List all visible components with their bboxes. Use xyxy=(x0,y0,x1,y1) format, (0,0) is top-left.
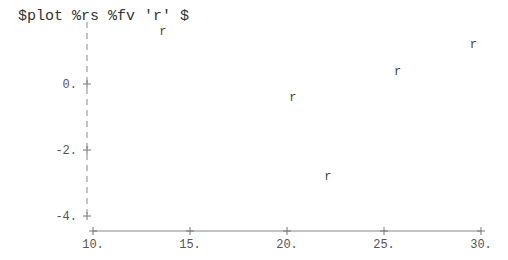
y-tick-label: -2. xyxy=(55,144,77,158)
data-point-marker: r xyxy=(159,25,166,39)
x-tick-label: 15. xyxy=(179,238,201,252)
x-tick-label: 20. xyxy=(276,238,298,252)
y-tick-label: 0. xyxy=(63,78,77,92)
data-point-marker: r xyxy=(470,38,477,52)
y-tick-label: -4. xyxy=(55,210,77,224)
scatter-plot: 0.-2.-4.10.15.20.25.30.rrrrr xyxy=(0,0,508,260)
data-point-marker: r xyxy=(324,170,331,184)
x-tick-label: 25. xyxy=(373,238,395,252)
data-point-marker: r xyxy=(289,91,296,105)
data-point-marker: r xyxy=(394,65,401,79)
x-tick-label: 10. xyxy=(82,238,104,252)
x-tick-label: 30. xyxy=(470,238,492,252)
